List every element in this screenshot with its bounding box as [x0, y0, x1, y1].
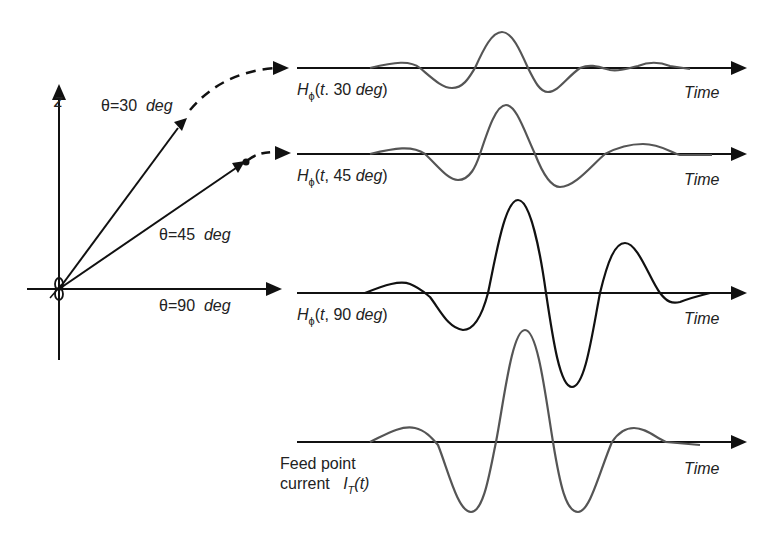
time-label-2: Time	[684, 172, 719, 188]
time-label-3: Time	[684, 311, 719, 327]
theta-45-unit: deg	[204, 226, 231, 243]
theta-90-arrowhead	[266, 282, 282, 296]
waveform-theta-90	[297, 200, 747, 387]
theta-45-dashed-path	[248, 152, 275, 160]
theta-90-unit: deg	[204, 297, 231, 314]
theta-45-value: θ=45	[159, 226, 195, 243]
theta-45-label: θ=45 deg	[159, 227, 231, 243]
z-axis-label: z	[54, 92, 63, 110]
theta-30-label: θ=30 deg	[101, 98, 173, 114]
time-label-1: Time	[684, 85, 719, 101]
waveform-3-label: Hϕ(t, 90 deg)	[297, 307, 388, 323]
waveform-2-label: Hϕ(t, 45 deg)	[297, 168, 388, 184]
feed-point-label-line2: current IT(t)	[280, 476, 369, 492]
theta-30-ray	[59, 128, 178, 289]
theta-30-unit: deg	[146, 97, 173, 114]
time-label-4: Time	[684, 461, 719, 477]
theta-30-value: θ=30	[101, 97, 137, 114]
waveform-1-label: Hϕ(t. 30 deg)	[297, 82, 388, 98]
theta-30-dashed-path	[190, 68, 275, 110]
theta-90-value: θ=90	[159, 297, 195, 314]
feed-point-label-line1: Feed point	[280, 456, 356, 472]
theta-90-label: θ=90 deg	[159, 298, 231, 314]
